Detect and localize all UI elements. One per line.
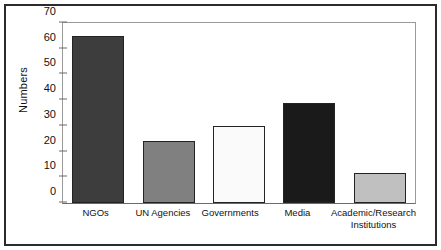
x-label-line: UN Agencies [135,207,190,218]
bar-slot [274,23,344,203]
x-label-line: NGOs [82,207,108,218]
bar-slot [63,23,133,203]
bar-slot [345,23,415,203]
plot-area: 0 10 20 30 40 50 60 70 [62,22,416,204]
y-tick-label: 20 [16,134,63,146]
bar-media[interactable] [283,103,335,203]
bar-un-agencies[interactable] [143,141,195,203]
bar-governments[interactable] [213,126,265,203]
y-tick-label: 70 [16,5,63,17]
x-label-un-agencies: UN Agencies [129,207,196,230]
x-label-line: Media [284,207,310,218]
figure-frame: Numbers 0 10 20 30 40 50 60 70 [4,4,437,246]
y-tick-label: 30 [16,108,63,120]
bars-layer [63,23,415,203]
x-axis-labels: NGOs UN Agencies Governments Media Acade… [62,207,416,230]
bar-ngos[interactable] [72,36,124,203]
y-tick-label: 50 [16,56,63,68]
bar-academic-research-institutions[interactable] [354,173,406,203]
x-label-line: Institutions [331,219,416,231]
x-label-governments: Governments [197,207,264,230]
y-tick-label: 10 [16,159,63,171]
bar-slot [204,23,274,203]
x-label-ngos: NGOs [62,207,129,230]
x-label-academic-research-institutions: Academic/Research Institutions [331,207,416,230]
x-label-media: Media [264,207,331,230]
y-tick-label: 40 [16,82,63,94]
y-tick-label: 60 [16,31,63,43]
bar-chart: Numbers 0 10 20 30 40 50 60 70 [6,6,435,244]
x-label-line: Academic/Research [331,207,416,218]
x-label-line: Governments [202,207,259,218]
bar-slot [133,23,203,203]
y-tick-label: 0 [16,185,63,197]
